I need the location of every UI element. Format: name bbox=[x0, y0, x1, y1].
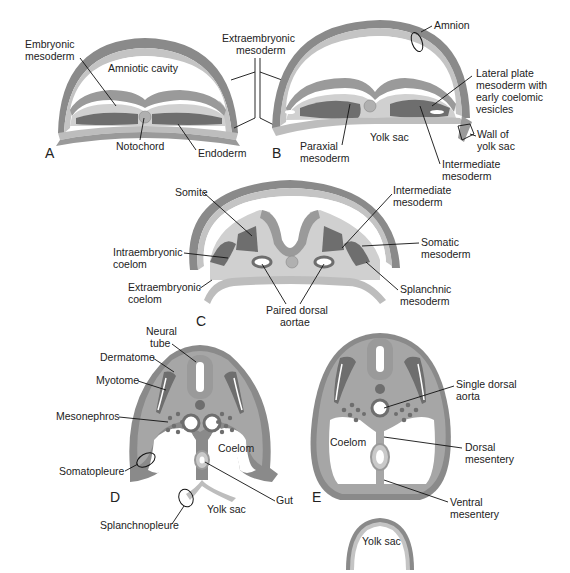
label-somatopleure: Somatopleure bbox=[59, 465, 125, 477]
label-somatic-mesoderm: Somaticmesoderm bbox=[421, 236, 471, 260]
label-paired-dorsal-aortae: Paired dorsalaortae bbox=[266, 304, 328, 328]
panel-label-a: A bbox=[45, 145, 55, 161]
panel-label-d: D bbox=[110, 489, 120, 505]
panel-label-b: B bbox=[272, 145, 281, 161]
label-myotome: Myotome bbox=[96, 374, 139, 386]
panel-a-embryo bbox=[56, 38, 240, 146]
label-splanchnopleure: Splanchnopleure bbox=[100, 519, 179, 531]
label-intraembryonic-coelom: Intraembryoniccoelom bbox=[113, 246, 182, 270]
label-amniotic-cavity: Amniotic cavity bbox=[108, 62, 179, 74]
label-dermatome: Dermatome bbox=[100, 351, 155, 363]
embryo-cross-section-diagram: Embryonicmesoderm Amniotic cavity Notoch… bbox=[0, 0, 570, 573]
panel-b-embryo bbox=[272, 20, 472, 142]
label-notochord: Notochord bbox=[116, 140, 165, 152]
label-splanchnic-mesoderm: Splanchnicmesoderm bbox=[400, 283, 451, 307]
panel-c-embryo bbox=[189, 180, 400, 304]
label-wall-of-yolk-sac: Wall ofyolk sac bbox=[477, 128, 515, 152]
label-endoderm: Endoderm bbox=[198, 147, 247, 159]
notochord-b bbox=[364, 100, 376, 112]
notochord-a bbox=[139, 111, 151, 123]
label-amnion: Amnion bbox=[434, 19, 470, 31]
label-dorsal-mesentery: Dorsalmesentery bbox=[465, 441, 515, 465]
label-coelom-d: Coelom bbox=[218, 442, 254, 454]
label-lateral-plate-mesoderm: Lateral platemesoderm withearly coelomic… bbox=[476, 67, 547, 115]
label-intermediate-mesoderm-b: Intermediatemesoderm bbox=[442, 158, 501, 182]
label-yolk-sac-d: Yolk sac bbox=[207, 503, 246, 515]
label-somite: Somite bbox=[175, 186, 208, 198]
label-extraembryonic-mesoderm: Extraembryonicmesoderm bbox=[222, 32, 295, 56]
panel-label-e: E bbox=[312, 489, 321, 505]
label-yolk-sac-e: Yolk sac bbox=[362, 535, 401, 547]
panel-d-embryo bbox=[129, 345, 278, 502]
label-neural-tube: Neuraltube bbox=[146, 325, 177, 349]
label-yolk-sac-b: Yolk sac bbox=[370, 131, 409, 143]
label-intermediate-mesoderm-c: Intermediatemesoderm bbox=[393, 184, 452, 208]
label-extraembryonic-coelom: Extraembryoniccoelom bbox=[128, 281, 201, 305]
label-gut: Gut bbox=[276, 494, 293, 506]
panel-label-c: C bbox=[196, 313, 206, 329]
label-ventral-mesentery: Ventralmesentery bbox=[450, 496, 500, 520]
label-single-dorsal-aorta: Single dorsalaorta bbox=[456, 378, 517, 402]
label-mesonephros: Mesonephros bbox=[56, 410, 120, 422]
label-embryonic-mesoderm: Embryonicmesoderm bbox=[25, 38, 75, 62]
label-coelom-e: Coelom bbox=[330, 436, 366, 448]
